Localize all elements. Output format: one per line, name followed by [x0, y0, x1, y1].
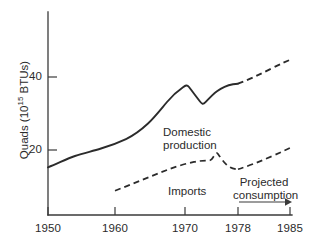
annotation-domestic-production-line2: production [163, 139, 217, 152]
chart-figure: Quads (1015 BTUs) 40 20 1950 1960 1970 1… [0, 0, 317, 249]
series-imports-projected [238, 147, 291, 169]
annotation-imports: Imports [168, 185, 206, 198]
annotation-projected-consumption-line1: Projected [233, 176, 295, 189]
x-tick-label-1970: 1970 [165, 222, 205, 235]
annotation-projected-consumption: Projected consumption [233, 176, 295, 202]
y-axis-ticks [48, 77, 57, 150]
series-domestic-production-projected [238, 59, 291, 83]
annotation-imports-line1: Imports [168, 185, 206, 198]
y-axis-title: Quads (1015 BTUs) [18, 40, 30, 180]
x-tick-label-1950: 1950 [28, 222, 68, 235]
annotation-projected-consumption-line2: consumption [233, 189, 295, 202]
annotation-domestic-production: Domestic production [163, 126, 217, 152]
y-tick-label-40: 40 [14, 70, 42, 83]
x-tick-label-1978: 1978 [218, 222, 258, 235]
x-tick-label-1960: 1960 [95, 222, 135, 235]
annotation-domestic-production-line1: Domestic [163, 126, 217, 139]
x-tick-label-1985: 1985 [270, 222, 310, 235]
chart-plot-area [0, 0, 317, 249]
y-tick-label-20: 20 [14, 143, 42, 156]
y-axis-title-exponent: 15 [16, 97, 25, 106]
x-axis-ticks [48, 207, 290, 215]
